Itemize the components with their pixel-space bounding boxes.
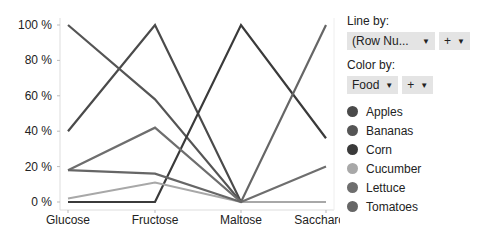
series-line-cucumber [68, 183, 326, 202]
plus-icon: + [407, 78, 414, 92]
line-by-dropdown[interactable]: (Row Nu... ▼ [347, 32, 435, 50]
line-by-value: (Row Nu... [352, 34, 409, 48]
legend: ApplesBananasCornCucumberLettuceTomatoes [347, 102, 487, 216]
chevron-down-icon: ▼ [457, 37, 465, 46]
legend-item-cucumber[interactable]: Cucumber [347, 159, 487, 178]
legend-label: Apples [366, 105, 403, 119]
legend-label: Tomatoes [366, 200, 418, 214]
color-by-label: Color by: [347, 58, 487, 72]
chart-visualization: 0 %20 %40 %60 %80 %100 %GlucoseFructoseM… [0, 0, 496, 239]
series-line-corn [68, 25, 326, 202]
x-tick-label: Glucose [46, 213, 90, 227]
legend-swatch-icon [347, 125, 358, 136]
legend-label: Cucumber [366, 162, 421, 176]
legend-item-lettuce[interactable]: Lettuce [347, 178, 487, 197]
chevron-down-icon: ▼ [420, 81, 428, 90]
legend-item-apples[interactable]: Apples [347, 102, 487, 121]
color-by-dropdown[interactable]: Food ▼ [347, 76, 398, 94]
line-chart: 0 %20 %40 %60 %80 %100 %GlucoseFructoseM… [0, 0, 340, 239]
line-by-label: Line by: [347, 14, 487, 28]
controls-panel: Line by: (Row Nu... ▼ + ▼ Color by: Food… [347, 14, 487, 216]
y-tick-label: 40 % [25, 124, 53, 138]
x-tick-label: Saccharose [294, 213, 340, 227]
x-tick-label: Fructose [132, 213, 179, 227]
y-tick-label: 100 % [18, 18, 52, 32]
legend-label: Lettuce [366, 181, 405, 195]
y-tick-label: 20 % [25, 160, 53, 174]
legend-item-bananas[interactable]: Bananas [347, 121, 487, 140]
legend-swatch-icon [347, 144, 358, 155]
x-tick-label: Maltose [220, 213, 262, 227]
legend-item-tomatoes[interactable]: Tomatoes [347, 197, 487, 216]
legend-swatch-icon [347, 182, 358, 193]
legend-swatch-icon [347, 106, 358, 117]
legend-label: Bananas [366, 124, 413, 138]
legend-swatch-icon [347, 163, 358, 174]
y-tick-label: 80 % [25, 53, 53, 67]
y-tick-label: 60 % [25, 89, 53, 103]
color-by-add-button[interactable]: + ▼ [402, 76, 433, 94]
chevron-down-icon: ▼ [385, 81, 393, 90]
legend-item-corn[interactable]: Corn [347, 140, 487, 159]
chevron-down-icon: ▼ [422, 37, 430, 46]
legend-swatch-icon [347, 201, 358, 212]
line-by-add-button[interactable]: + ▼ [439, 32, 470, 50]
color-by-value: Food [352, 78, 379, 92]
legend-label: Corn [366, 143, 392, 157]
y-tick-label: 0 % [31, 195, 52, 209]
plus-icon: + [444, 34, 451, 48]
